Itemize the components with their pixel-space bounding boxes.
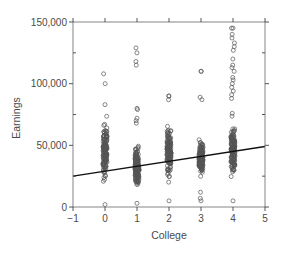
data-point xyxy=(103,103,107,107)
y-tick-label: 100,000 xyxy=(31,78,68,89)
data-point xyxy=(230,111,234,115)
x-tick-label: 3 xyxy=(198,213,204,224)
data-point xyxy=(230,66,234,70)
data-point xyxy=(231,78,235,82)
data-point xyxy=(134,121,138,125)
data-point xyxy=(229,175,233,179)
data-point xyxy=(231,199,235,203)
data-point xyxy=(135,51,139,55)
y-axis-label: Earnings xyxy=(10,97,22,138)
x-tick-label: 4 xyxy=(230,213,236,224)
y-tick-label: 150,000 xyxy=(31,17,68,28)
data-point xyxy=(199,69,203,73)
x-tick-label: 2 xyxy=(166,213,172,224)
scatter-chart: −1012345 050,000100,000150,000 College E… xyxy=(0,0,283,253)
data-points xyxy=(101,26,237,206)
data-point xyxy=(105,114,109,118)
data-point xyxy=(103,82,107,86)
data-point xyxy=(198,196,202,200)
data-point xyxy=(231,63,235,67)
y-tick-label: 50,000 xyxy=(36,140,67,151)
x-tick-label: 5 xyxy=(262,213,268,224)
data-point xyxy=(232,69,236,73)
x-axis: −1012345 xyxy=(67,18,268,224)
x-tick-label: 1 xyxy=(134,213,140,224)
data-point xyxy=(134,46,138,50)
x-tick-label: 0 xyxy=(102,213,108,224)
data-point xyxy=(135,116,139,120)
x-axis-label: College xyxy=(151,229,187,241)
data-point xyxy=(102,123,106,127)
data-point xyxy=(231,57,235,61)
plot-frame xyxy=(73,22,265,207)
data-point xyxy=(231,48,235,52)
data-point xyxy=(167,199,171,203)
data-point xyxy=(102,72,106,76)
data-point xyxy=(135,201,139,205)
data-point xyxy=(166,124,170,128)
y-tick-label: 0 xyxy=(61,202,67,213)
data-point xyxy=(103,203,107,207)
data-point xyxy=(199,174,203,178)
x-tick-label: −1 xyxy=(67,213,79,224)
data-point xyxy=(199,190,203,194)
data-point xyxy=(230,82,234,86)
data-point xyxy=(167,180,171,184)
